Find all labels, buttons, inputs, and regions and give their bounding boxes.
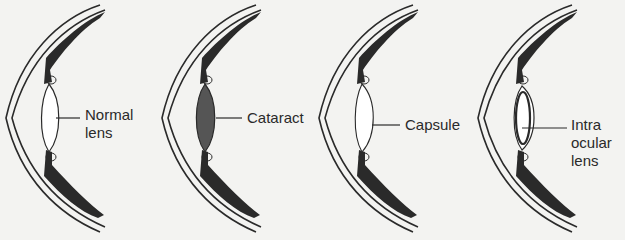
eye-diagram: Normal lens Cataract Capsule Intra ocula…: [0, 0, 625, 240]
eye-panel-iol: [478, 5, 577, 232]
label-intraocular-lens: Intra ocular lens: [571, 116, 612, 170]
eye-panel-capsule: [319, 5, 418, 232]
label-capsule: Capsule: [405, 116, 460, 134]
label-normal-lens: Normal lens: [85, 106, 133, 142]
iol-implant-shape: [516, 92, 530, 144]
capsule-shape: [355, 84, 373, 152]
cataract-lens-shape: [196, 84, 214, 152]
label-cataract: Cataract: [247, 109, 304, 127]
